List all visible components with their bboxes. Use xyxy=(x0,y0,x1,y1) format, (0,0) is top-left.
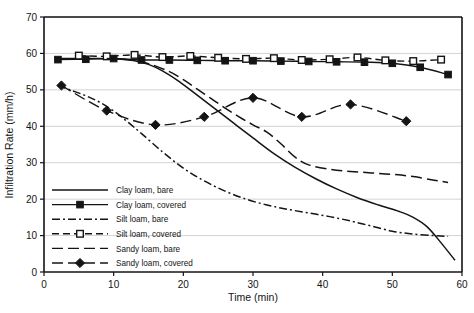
y-tick-label-40: 40 xyxy=(26,121,38,132)
data-point-0 xyxy=(55,56,62,63)
data-point-0 xyxy=(76,52,83,59)
y-axis-ticks: 010203040506070 xyxy=(26,12,44,278)
x-tick-label-10: 10 xyxy=(108,279,120,290)
y-tick-label-50: 50 xyxy=(26,84,38,95)
data-point-5 xyxy=(215,55,222,62)
x-tick-label-30: 30 xyxy=(247,279,259,290)
legend-label: Sandy loam, bare xyxy=(116,245,181,254)
x-tick-label-0: 0 xyxy=(41,279,47,290)
data-point-13 xyxy=(417,64,424,71)
data-point-14 xyxy=(445,71,452,78)
data-point-11 xyxy=(361,59,368,66)
data-point-10 xyxy=(354,54,361,61)
legend-label: Sandy loam, covered xyxy=(116,259,193,268)
data-point-2 xyxy=(131,52,138,59)
y-tick-label-10: 10 xyxy=(26,230,38,241)
data-point-1 xyxy=(83,56,90,63)
x-tick-label-20: 20 xyxy=(178,279,190,290)
data-point-9 xyxy=(305,58,312,65)
legend-marker xyxy=(77,201,84,208)
data-point-12 xyxy=(410,58,417,65)
data-point-11 xyxy=(382,57,389,64)
y-tick-label-70: 70 xyxy=(26,12,38,23)
legend-label: Clay loam, bare xyxy=(116,186,174,195)
y-tick-label-30: 30 xyxy=(26,157,38,168)
infiltration-rate-line-chart: 010203040506070 0102030405060 Infiltrati… xyxy=(0,0,474,313)
y-tick-label-0: 0 xyxy=(31,267,37,278)
x-axis-title: Time (min) xyxy=(228,291,278,303)
y-tick-label-60: 60 xyxy=(26,48,38,59)
x-tick-label-50: 50 xyxy=(387,279,399,290)
data-point-4 xyxy=(187,53,194,60)
legend-marker xyxy=(77,231,84,238)
data-point-5 xyxy=(194,57,201,64)
data-point-9 xyxy=(326,56,333,63)
data-point-6 xyxy=(243,56,250,63)
x-tick-label-40: 40 xyxy=(317,279,329,290)
data-point-3 xyxy=(159,54,166,61)
figure-container: 010203040506070 0102030405060 Infiltrati… xyxy=(0,0,474,313)
data-point-7 xyxy=(271,55,278,62)
x-tick-label-60: 60 xyxy=(456,279,468,290)
data-point-13 xyxy=(438,56,445,63)
legend-label: Silt loam, covered xyxy=(116,230,182,239)
data-point-8 xyxy=(298,57,305,64)
y-tick-label-20: 20 xyxy=(26,194,38,205)
y-axis-title: Infiltration Rate (mm/h) xyxy=(3,92,15,199)
legend-label: Clay loam, covered xyxy=(116,201,187,210)
legend-label: Silt loam, bare xyxy=(116,215,169,224)
x-axis-ticks: 0102030405060 xyxy=(41,272,468,290)
